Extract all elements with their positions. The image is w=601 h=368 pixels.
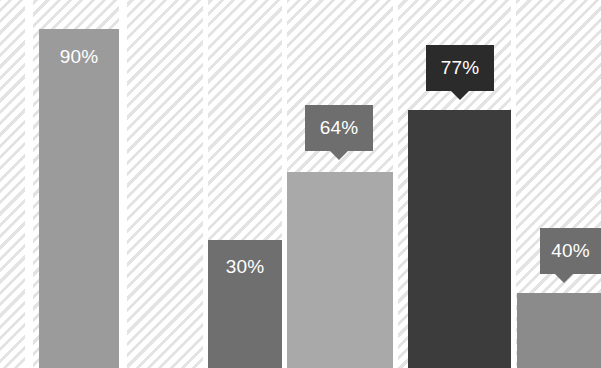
bar-40-tooltip-label: 40%	[551, 240, 590, 262]
bar-90[interactable]: 90%	[39, 29, 119, 368]
bar-64-tooltip-tail	[330, 151, 348, 160]
bar-64[interactable]	[287, 172, 393, 368]
bar-40-tooltip[interactable]: 40%	[540, 228, 601, 274]
bar-40[interactable]	[517, 293, 601, 368]
bar-77-tooltip[interactable]: 77%	[426, 45, 494, 91]
bar-chart: 90% 30% 64% 77% 40%	[0, 0, 601, 368]
bar-77-tooltip-label: 77%	[441, 57, 480, 79]
bar-40-tooltip-tail	[555, 274, 573, 283]
bar-30[interactable]: 30%	[208, 240, 282, 368]
bar-64-tooltip-label: 64%	[320, 117, 359, 139]
bar-77[interactable]	[408, 110, 511, 368]
stripe-column-3	[127, 0, 203, 368]
bar-64-tooltip[interactable]: 64%	[305, 105, 373, 151]
bar-90-label: 90%	[39, 46, 119, 68]
bar-77-tooltip-tail	[451, 91, 469, 100]
bar-30-label: 30%	[208, 256, 282, 278]
stripe-column-1	[0, 0, 25, 368]
